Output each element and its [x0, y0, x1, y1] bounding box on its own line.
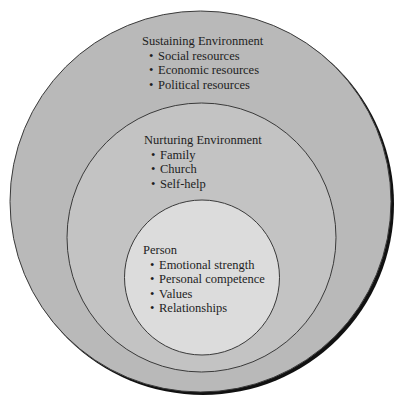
bullet-icon: •	[149, 63, 158, 78]
list-item: •Values	[150, 287, 265, 302]
list-item: •Political resources	[149, 78, 263, 93]
bullet-icon: •	[151, 177, 160, 192]
bullet-icon: •	[150, 301, 159, 316]
list-item: •Family	[151, 148, 262, 163]
ring-title: Nurturing Environment	[144, 133, 262, 148]
list-item: •Relationships	[150, 301, 265, 316]
bullet-icon: •	[149, 49, 158, 64]
list-item: •Emotional strength	[150, 258, 265, 273]
bullet-icon: •	[150, 287, 159, 302]
ring-title: Sustaining Environment	[142, 34, 263, 49]
person-label: Person •Emotional strength •Personal com…	[143, 243, 265, 316]
nurturing-environment-label: Nurturing Environment •Family •Church •S…	[144, 133, 262, 191]
list-item: •Self-help	[151, 177, 262, 192]
list-item: •Personal competence	[150, 272, 265, 287]
bullet-icon: •	[151, 162, 160, 177]
ring-items: •Emotional strength •Personal competence…	[143, 258, 265, 316]
ring-items: •Social resources •Economic resources •P…	[142, 49, 263, 93]
bullet-icon: •	[150, 258, 159, 273]
bullet-icon: •	[149, 78, 158, 93]
bullet-icon: •	[150, 272, 159, 287]
sustaining-environment-label: Sustaining Environment •Social resources…	[142, 34, 263, 92]
list-item: •Economic resources	[149, 63, 263, 78]
list-item: •Social resources	[149, 49, 263, 64]
list-item: •Church	[151, 162, 262, 177]
ring-items: •Family •Church •Self-help	[144, 148, 262, 192]
ring-title: Person	[143, 243, 265, 258]
bullet-icon: •	[151, 148, 160, 163]
